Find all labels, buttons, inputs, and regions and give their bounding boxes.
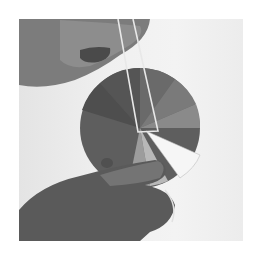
bottom-hand xyxy=(19,158,175,241)
photograph xyxy=(19,19,243,241)
scene xyxy=(19,19,243,241)
